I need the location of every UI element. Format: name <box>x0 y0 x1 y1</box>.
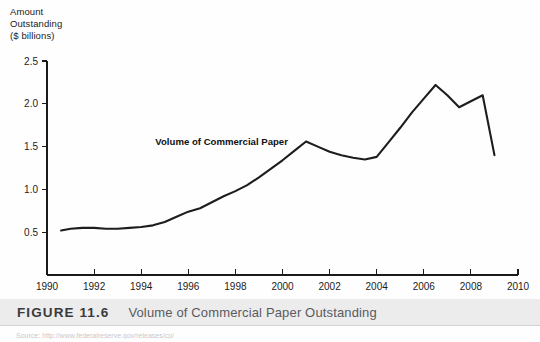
x-tick-label: 2008 <box>460 281 483 292</box>
y-tick-label: 1.5 <box>24 141 38 152</box>
x-tick-label: 2004 <box>366 281 389 292</box>
x-tick-label: 2010 <box>507 281 530 292</box>
x-tick-label: 1998 <box>224 281 247 292</box>
x-tick-label: 2002 <box>318 281 341 292</box>
x-tick-label: 1990 <box>36 281 59 292</box>
x-axis-ticks: 1990199219941996199820002002200420062008… <box>36 269 530 292</box>
y-tick-label: 2.0 <box>24 98 38 109</box>
y-axis-ticks: 0.51.01.52.02.5 <box>24 56 47 238</box>
figure-caption-bar: FIGURE 11.6 Volume of Commercial Paper O… <box>0 299 540 326</box>
x-tick-label: 1996 <box>177 281 200 292</box>
y-tick-label: 2.5 <box>24 56 38 67</box>
y-tick-label: 1.0 <box>24 184 38 195</box>
y-tick-label: 0.5 <box>24 227 38 238</box>
x-tick-label: 1994 <box>130 281 153 292</box>
series-annotation-label: Volume of Commercial Paper <box>155 136 288 147</box>
figure-number: FIGURE 11.6 <box>17 305 109 320</box>
figure-title: Volume of Commercial Paper Outstanding <box>128 305 377 320</box>
series-line-commercial-paper <box>61 85 494 231</box>
x-tick-label: 2006 <box>413 281 436 292</box>
x-tick-label: 1992 <box>83 281 106 292</box>
figure-container: Amount Outstanding ($ billions) 0.51.01.… <box>0 0 540 342</box>
line-chart-plot: 0.51.01.52.02.5 199019921994199619982000… <box>0 0 540 300</box>
x-tick-label: 2000 <box>271 281 294 292</box>
source-note-remnant: Source: http://www.federalreserve.gov/re… <box>16 333 316 339</box>
